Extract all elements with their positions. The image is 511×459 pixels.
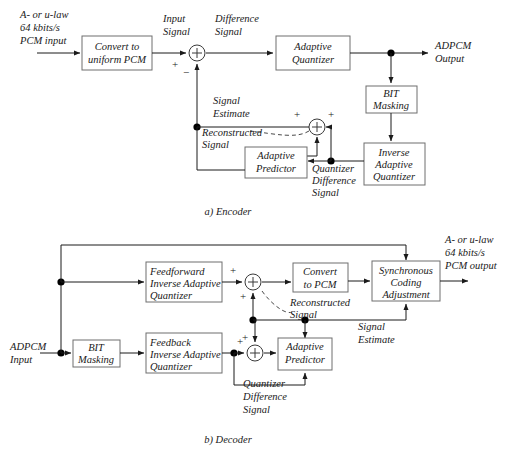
label-input-signal-line2: Signal	[163, 26, 190, 37]
encoder-input-label-line2: 64 kbits/s	[20, 22, 60, 33]
sign-plus-adder2-predictor: +	[294, 108, 300, 120]
label-encoder-qdiff-line1: Quantizer	[312, 163, 355, 174]
block-encoder-bit-masking-line1: BIT	[383, 88, 400, 99]
block-decoder-adaptive-predictor-line1: Adaptive	[285, 341, 324, 352]
block-feedforward-line1: Feedforward	[149, 266, 205, 277]
label-difference-signal-line1: Difference	[214, 13, 259, 24]
encoder-input-label-line3: PCM input	[19, 35, 67, 46]
block-encoder-bit-masking-line2: Masking	[372, 100, 409, 111]
decoder-input-label-line1: ADPCM	[9, 341, 47, 352]
block-feedback-line3: Quantizer	[150, 361, 193, 372]
label-decoder-reconstructed-line2: Signal	[290, 309, 317, 320]
block-sca-line1: Synchronous	[379, 265, 433, 276]
label-decoder-signal-estimate-line2: Estimate	[357, 334, 395, 345]
label-decoder-signal-estimate-line1: Signal	[358, 321, 385, 332]
sign-minus-adder1-feedback: −	[183, 66, 189, 78]
label-encoder-qdiff-line3: Signal	[312, 187, 339, 198]
sign-plus-decoder-upper-left: +	[230, 264, 236, 276]
block-feedforward-line3: Quantizer	[150, 290, 193, 301]
leader-decoder-reconstructed-signal	[262, 291, 292, 313]
label-encoder-qdiff-line2: Difference	[311, 175, 356, 186]
block-adaptive-quantizer-line2: Quantizer	[292, 54, 335, 65]
label-difference-signal-line2: Signal	[215, 26, 242, 37]
label-decoder-reconstructed-line1: Reconstructed	[289, 297, 351, 308]
block-decoder-adaptive-predictor-line2: Predictor	[284, 354, 326, 365]
block-convert-to-uniform-pcm-line1: Convert to	[95, 41, 140, 52]
block-feedback-line2: Inverse Adaptive	[149, 349, 221, 360]
block-encoder-inverse-adaptive-quantizer-line3: Quantizer	[373, 171, 416, 182]
caption-decoder: b) Decoder	[204, 434, 252, 446]
block-feedback-line1: Feedback	[149, 337, 191, 348]
encoder-output-label-line1: ADPCM	[434, 40, 472, 51]
label-decoder-qdiff-line3: Signal	[243, 404, 270, 415]
block-convert-to-pcm-line2: to PCM	[304, 279, 338, 290]
label-encoder-reconstructed-line1: Reconstructed	[201, 127, 263, 138]
block-decoder-bit-masking-line2: Masking	[77, 354, 114, 365]
label-decoder-qdiff-line1: Quantizer	[243, 378, 286, 389]
block-convert-to-uniform-pcm-line2: uniform PCM	[88, 54, 147, 65]
block-encoder-inverse-adaptive-quantizer-line1: Inverse	[378, 147, 410, 158]
block-convert-to-pcm-line1: Convert	[303, 266, 338, 277]
block-encoder-adaptive-predictor-line1: Adaptive	[256, 150, 295, 161]
decoder-output-label-line1: A- or u-law	[444, 234, 493, 245]
block-encoder-adaptive-predictor-line2: Predictor	[255, 163, 297, 174]
adpcm-block-diagram: A- or u-law 64 kbits/s PCM input Convert…	[0, 0, 511, 459]
diagram-canvas: A- or u-law 64 kbits/s PCM input Convert…	[0, 0, 511, 459]
label-encoder-signal-estimate-line2: Estimate	[212, 108, 250, 119]
decoder-output-label-line2: 64 kbits/s	[445, 247, 485, 258]
caption-encoder: a) Encoder	[205, 206, 253, 218]
encoder-output-label-line2: Output	[435, 53, 465, 64]
sign-plus-adder1-input: +	[172, 58, 178, 70]
label-encoder-reconstructed-line2: Signal	[202, 139, 229, 150]
label-input-signal-line1: Input	[162, 13, 186, 24]
block-sca-line2: Coding	[391, 277, 422, 288]
block-feedforward-line2: Inverse Adaptive	[149, 278, 221, 289]
sign-plus-adder2-qdiff: +	[328, 108, 334, 120]
block-encoder-inverse-adaptive-quantizer-line2: Adaptive	[374, 159, 413, 170]
label-encoder-signal-estimate-line1: Signal	[213, 95, 240, 106]
decoder-input-label-line2: Input	[9, 354, 33, 365]
encoder-input-label-line1: A- or u-law	[19, 9, 68, 20]
label-decoder-qdiff-line2: Difference	[242, 391, 287, 402]
block-decoder-bit-masking-line1: BIT	[88, 342, 105, 353]
block-sca-line3: Adjustment	[381, 289, 430, 300]
sign-plus-decoder-upper-bottom: +	[240, 290, 246, 302]
sign-plus-decoder-lower-top: +	[242, 331, 248, 343]
block-adaptive-quantizer-line1: Adaptive	[293, 41, 332, 52]
decoder-output-label-line3: PCM output	[444, 260, 498, 271]
